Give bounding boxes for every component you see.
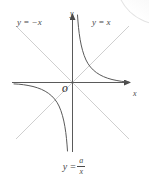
caption-lhs: y =	[63, 161, 77, 172]
label-x-axis: x	[133, 90, 137, 98]
label-asymptote-positive-diagonal: y = x	[92, 18, 111, 27]
figure-caption: y =ax	[0, 158, 149, 178]
label-y-axis: y	[70, 10, 74, 18]
label-asymptote-negative-diagonal: y = −x	[17, 18, 42, 27]
label-origin: O	[62, 86, 68, 94]
fraction-numerator: a	[77, 157, 85, 165]
caption-fraction: ax	[77, 157, 85, 177]
hyperbola-figure: y = −x y = x x y O y =ax	[0, 0, 149, 187]
fraction-denominator: x	[77, 168, 85, 176]
hyperbola-branch-quadrant-3	[14, 84, 68, 151]
